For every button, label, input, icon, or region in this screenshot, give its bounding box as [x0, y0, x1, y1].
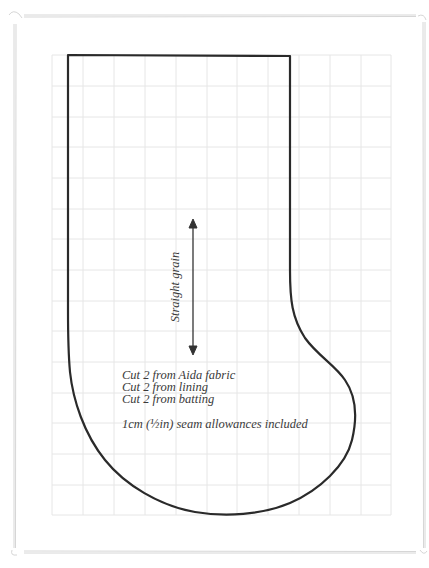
cutting-instructions: Cut 2 from Aida fabric Cut 2 from lining… [122, 370, 235, 405]
seam-allowance-note: 1cm (½in) seam allowances included [122, 418, 308, 430]
stocking-outline [68, 55, 355, 515]
pattern-drawing [0, 0, 429, 568]
grain-label: Straight grain [168, 252, 183, 323]
decorative-frame [9, 12, 427, 555]
pattern-grid [52, 55, 391, 515]
instruction-line: Cut 2 from batting [122, 394, 235, 406]
page-frame [0, 0, 429, 568]
